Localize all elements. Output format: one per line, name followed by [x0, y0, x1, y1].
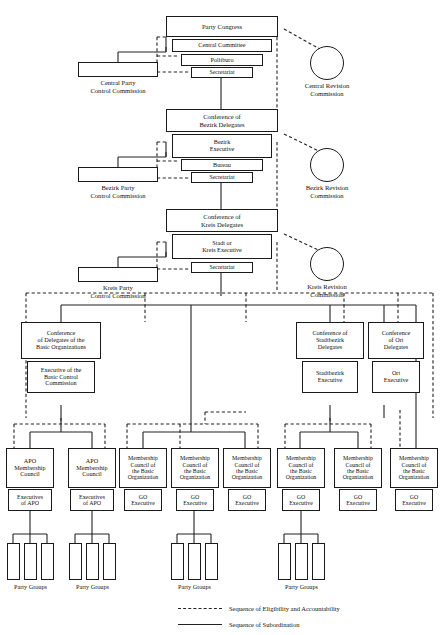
party-group-bar[interactable] — [188, 543, 201, 580]
node-go-executive[interactable]: GO Executive — [282, 489, 320, 511]
label-party-groups: Party Groups — [271, 583, 332, 591]
node-go-executive[interactable]: GO Executive — [176, 489, 214, 511]
node-party-congress[interactable]: Party Congress — [166, 16, 278, 37]
party-group-bar[interactable] — [295, 543, 308, 580]
node-bezirk-party-control-commission[interactable] — [78, 167, 158, 182]
label-bezirk-party-control-commission: Bezirk Party Control Commission — [63, 184, 173, 200]
party-group-bar[interactable] — [103, 543, 116, 580]
node-central-party-control-commission[interactable] — [78, 62, 158, 77]
party-group-bar[interactable] — [278, 543, 291, 580]
label-kreis-party-control-commission: Kreis Party Control Commission — [63, 284, 173, 300]
node-conference-delegates-basic-orgs[interactable]: Conference of Delegates of the Basic Org… — [21, 322, 101, 359]
legend-solid-line-icon — [178, 624, 222, 625]
node-membership-council-basic-org[interactable]: Membership Council of the Basic Organiza… — [334, 448, 382, 488]
node-central-committee[interactable]: Central Committee — [172, 39, 272, 52]
node-go-executive[interactable]: GO Executive — [124, 489, 162, 511]
node-stadtbezirk-executive[interactable]: Stadtbezirk Executive — [302, 361, 358, 393]
node-membership-council-basic-org[interactable]: Membership Council of the Basic Organiza… — [171, 448, 219, 488]
node-conference-stadtbezirk-delegates[interactable]: Conference of Stadtbezirk Delegates — [296, 322, 364, 359]
party-group-bar[interactable] — [312, 543, 325, 580]
legend-item-eligibility: Sequence of Eligibility and Accountabili… — [178, 605, 340, 612]
node-executive-basic-control-commission[interactable]: Executive of the Basic Control Commissio… — [27, 361, 95, 393]
party-group-bar[interactable] — [24, 543, 37, 580]
node-kreis-secretariat[interactable]: Secretariat — [191, 262, 253, 273]
node-bureau[interactable]: Bureau — [181, 159, 263, 171]
node-apo-membership-council[interactable]: APO Membership Council — [68, 448, 116, 488]
node-executives-of-apo[interactable]: Executives of APO — [8, 489, 52, 511]
node-kreis-party-control-commission[interactable] — [78, 267, 158, 282]
label-bezirk-revision-commission: Bezirk Revision Commission — [277, 184, 377, 200]
node-central-secretariat[interactable]: Secretariat — [191, 67, 253, 78]
party-group-bar[interactable] — [7, 543, 20, 580]
node-membership-council-basic-org[interactable]: Membership Council of the Basic Organiza… — [390, 448, 438, 488]
node-ort-executive[interactable]: Ort Executive — [372, 361, 420, 393]
label-central-revision-commission: Central Revision Commission — [277, 82, 377, 98]
node-bezirk-executive[interactable]: Bezirk Executive — [172, 134, 272, 158]
legend-item-subordination: Sequence of Subordination — [178, 621, 299, 628]
node-bezirk-secretariat[interactable]: Secretariat — [191, 172, 253, 183]
node-kreis-revision-commission[interactable] — [310, 247, 344, 281]
node-bezirk-revision-commission[interactable] — [310, 148, 344, 182]
node-conference-kreis-delegates[interactable]: Conference of Kreis Delegates — [166, 209, 278, 232]
node-executives-of-apo[interactable]: Executives of APO — [70, 489, 114, 511]
node-membership-council-basic-org[interactable]: Membership Council of the Basic Organiza… — [277, 448, 325, 488]
label-kreis-revision-commission: Kreis Revision Commission — [277, 283, 377, 299]
node-politburo[interactable]: Politburo — [181, 54, 263, 66]
party-group-bar[interactable] — [41, 543, 54, 580]
label-central-party-control-commission: Central Party Control Commission — [63, 79, 173, 95]
node-go-executive[interactable]: GO Executive — [395, 489, 433, 511]
party-group-bar[interactable] — [86, 543, 99, 580]
label-party-groups: Party Groups — [164, 583, 225, 591]
node-conference-bezirk-delegates[interactable]: Conference of Bezirk Delegates — [166, 109, 278, 132]
node-membership-council-basic-org[interactable]: Membership Council of the Basic Organiza… — [223, 448, 271, 488]
party-group-bar[interactable] — [171, 543, 184, 580]
legend-label-subordination: Sequence of Subordination — [229, 621, 299, 628]
org-chart: Party Congress Central Committee Politbu… — [0, 0, 442, 635]
node-central-revision-commission[interactable] — [310, 46, 344, 80]
label-party-groups: Party Groups — [62, 583, 123, 591]
node-membership-council-basic-org[interactable]: Membership Council of the Basic Organiza… — [119, 448, 167, 488]
party-group-bar[interactable] — [69, 543, 82, 580]
node-go-executive[interactable]: GO Executive — [339, 489, 377, 511]
legend-dashed-line-icon — [178, 608, 222, 609]
party-group-bar[interactable] — [205, 543, 218, 580]
node-conference-ort-delegates[interactable]: Conference of Ort Delegates — [368, 322, 424, 359]
node-stadt-or-kreis-executive[interactable]: Stadt or Kreis Executive — [172, 234, 272, 259]
node-apo-membership-council[interactable]: APO Membership Council — [6, 448, 54, 488]
legend-label-eligibility: Sequence of Eligibility and Accountabili… — [229, 605, 340, 612]
node-go-executive[interactable]: GO Executive — [228, 489, 266, 511]
label-party-groups: Party Groups — [0, 583, 61, 591]
